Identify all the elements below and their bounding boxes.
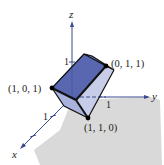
- point-1-1-0: [86, 116, 91, 121]
- z-axis-label: z: [68, 8, 74, 20]
- cube-diagram: y z x 1 1 1 (1, 0, 1) (0, 1, 1) (1, 1, 0…: [0, 0, 164, 165]
- z-axis-arrow-icon: [70, 21, 74, 27]
- point-0-1-1: [104, 64, 109, 69]
- z-tick-1: 1: [64, 56, 69, 67]
- y-axis-label: y: [151, 90, 157, 102]
- point-label-1-1-0: (1, 1, 0): [84, 122, 118, 134]
- point-label-0-1-1: (0, 1, 1): [111, 58, 145, 70]
- x-axis-label: x: [11, 148, 17, 160]
- point-label-1-0-1: (1, 0, 1): [8, 83, 42, 95]
- point-1-0-1: [50, 86, 55, 91]
- y-tick-1: 1: [106, 99, 111, 110]
- x-tick-1: 1: [43, 111, 48, 122]
